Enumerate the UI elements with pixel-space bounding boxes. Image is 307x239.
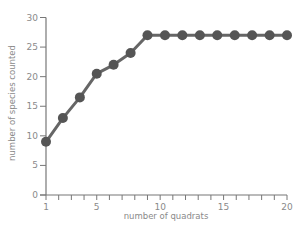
data-point-marker [75,92,85,102]
x-tick-label: 15 [218,202,229,212]
y-tick-label: 15 [27,101,38,111]
y-tick-label: 30 [27,13,39,23]
data-point-marker [142,30,152,40]
data-point-marker [247,30,257,40]
x-axis: 15101520 [40,195,293,212]
x-axis-title: number of quadrats [124,211,209,221]
data-point-marker [109,60,119,70]
series-line [46,35,287,142]
data-point-marker [126,48,136,58]
species-area-chart: 051015202530 15101520 number of quadrats… [0,0,307,239]
y-axis: 051015202530 [27,13,46,201]
y-tick-label: 10 [27,131,39,141]
data-series [41,30,292,147]
data-point-marker [41,137,51,147]
data-point-marker [160,30,170,40]
x-tick-label: 20 [281,202,293,212]
data-point-marker [177,30,187,40]
x-tick-label: 5 [94,202,100,212]
data-point-marker [230,30,240,40]
data-point-marker [212,30,222,40]
data-point-marker [282,30,292,40]
data-point-marker [265,30,275,40]
chart-canvas: 051015202530 15101520 number of quadrats… [0,0,307,239]
y-tick-label: 25 [27,42,38,52]
x-tick-label: 1 [43,202,49,212]
data-point-marker [58,113,68,123]
y-tick-label: 20 [27,72,39,82]
y-tick-label: 0 [32,190,38,200]
data-point-marker [195,30,205,40]
data-point-marker [92,69,102,79]
y-tick-label: 5 [32,160,38,170]
y-axis-title: number of species counted [7,45,17,161]
